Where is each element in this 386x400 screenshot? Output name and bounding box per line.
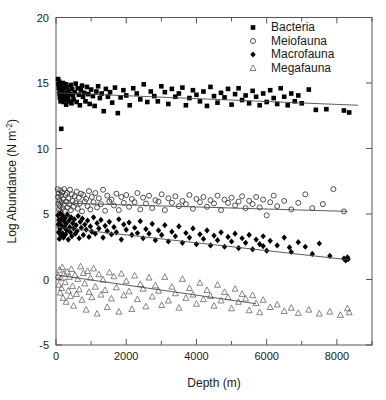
data-point <box>229 305 235 311</box>
data-point <box>135 230 140 236</box>
y-axis-title: Log Abundance (N m-2) <box>4 119 19 243</box>
chart-legend: BacteriaMeiofaunaMacrofaunaMegafauna <box>250 20 335 75</box>
data-point <box>78 103 83 108</box>
y-tick-label: 0 <box>43 274 49 286</box>
data-point <box>296 200 301 205</box>
chart-canvas: 02000400060008000 -505101520 BacteriaMei… <box>0 0 386 400</box>
data-point <box>76 286 82 292</box>
data-point <box>250 89 255 94</box>
data-point <box>105 193 110 198</box>
data-point <box>143 226 148 232</box>
data-point <box>67 293 73 299</box>
data-point <box>81 94 86 99</box>
data-point <box>229 102 234 107</box>
data-point <box>243 240 248 246</box>
data-point <box>347 110 352 115</box>
data-point <box>215 282 221 288</box>
data-point <box>76 235 81 241</box>
data-point <box>149 293 155 299</box>
data-point <box>60 295 66 301</box>
data-point <box>193 301 199 307</box>
data-point <box>73 81 78 86</box>
data-point <box>102 287 108 293</box>
data-point <box>156 227 161 233</box>
data-point <box>163 90 168 95</box>
data-point <box>123 278 129 284</box>
data-point <box>169 200 174 205</box>
data-point <box>225 294 231 300</box>
data-point <box>253 300 259 306</box>
data-point <box>327 308 333 314</box>
data-point <box>198 99 203 104</box>
data-point <box>296 239 301 245</box>
data-point <box>150 206 155 211</box>
data-point <box>236 86 241 91</box>
data-point <box>208 242 213 248</box>
data-point <box>275 242 280 248</box>
data-point <box>92 104 97 109</box>
data-point <box>222 244 227 250</box>
data-point <box>116 308 122 314</box>
data-point <box>246 232 251 238</box>
data-point <box>232 231 237 237</box>
data-point <box>194 241 199 247</box>
x-tick-label: 2000 <box>114 350 138 362</box>
data-point <box>68 266 74 272</box>
data-point <box>254 94 259 99</box>
data-point <box>113 284 119 290</box>
data-point <box>91 214 96 220</box>
data-point <box>260 297 266 303</box>
data-point <box>250 65 256 71</box>
data-point <box>69 101 74 106</box>
data-point <box>98 96 103 101</box>
series-meiofauna <box>55 187 346 218</box>
data-point <box>197 280 203 286</box>
data-point <box>146 274 152 280</box>
data-point <box>187 193 192 198</box>
legend-label-macrofauna: Macrofauna <box>271 47 335 61</box>
data-point <box>89 87 94 92</box>
data-point <box>96 271 102 277</box>
data-point <box>153 198 158 203</box>
data-point <box>126 219 131 225</box>
data-point <box>59 127 64 132</box>
data-point <box>320 202 325 207</box>
data-point <box>225 234 230 240</box>
data-point <box>226 200 231 205</box>
data-point <box>239 235 244 241</box>
data-point <box>159 84 164 89</box>
data-point <box>162 222 167 228</box>
data-point <box>104 87 109 92</box>
data-point <box>102 223 107 229</box>
data-point <box>75 213 80 219</box>
data-point <box>126 288 132 294</box>
data-point <box>107 219 112 225</box>
data-point <box>94 310 100 316</box>
data-point <box>70 283 76 289</box>
data-point <box>83 307 89 313</box>
trendline-megafauna <box>56 275 256 304</box>
data-point <box>257 103 262 108</box>
data-point <box>253 236 258 242</box>
data-point <box>108 295 114 301</box>
data-point <box>132 200 137 205</box>
data-point <box>271 96 276 101</box>
data-point <box>201 89 206 94</box>
data-point <box>183 202 188 207</box>
data-point <box>281 308 287 314</box>
data-point <box>250 292 256 298</box>
data-point <box>141 195 146 200</box>
data-point <box>119 194 124 199</box>
x-axis-title: Depth (m) <box>187 376 240 390</box>
data-point <box>205 104 210 109</box>
scatter-plot-figure: 02000400060008000 -505101520 BacteriaMei… <box>0 0 386 400</box>
data-point <box>80 83 85 88</box>
data-point <box>211 303 217 309</box>
x-tick-label: 6000 <box>254 350 278 362</box>
series-megafauna <box>55 263 352 317</box>
data-point <box>208 85 213 90</box>
y-tick-label: 10 <box>37 143 49 155</box>
data-point <box>215 237 220 243</box>
x-tick-label: 4000 <box>184 350 208 362</box>
data-point <box>285 103 290 108</box>
